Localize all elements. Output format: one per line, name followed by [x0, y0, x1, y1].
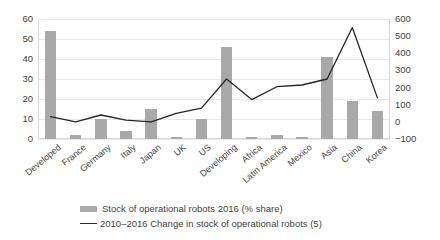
left-axis-tick: 40	[22, 54, 33, 64]
line-swatch-icon	[80, 223, 97, 224]
legend-label-line: 2010–2016 Change in stock of operational…	[100, 218, 322, 229]
plot-area: 0102030405060 −1000100200300400500600	[38, 19, 390, 139]
right-axis-tick: 400	[395, 48, 411, 58]
right-axis-tick: 100	[395, 100, 411, 110]
line-series	[38, 19, 390, 139]
category-axis-labels: DevelopedFranceGermanyItalyJapanUKUSDeve…	[38, 139, 390, 197]
legend-item-line: 2010–2016 Change in stock of operational…	[80, 216, 380, 231]
left-axis-tick: 20	[22, 94, 33, 104]
chart-legend: Stock of operational robots 2016 (% shar…	[80, 201, 380, 231]
left-axis-tick: 60	[22, 14, 33, 24]
bar-swatch-icon	[80, 206, 97, 212]
legend-label-bars: Stock of operational robots 2016 (% shar…	[102, 203, 283, 214]
left-axis-tick: 50	[22, 34, 33, 44]
left-axis-tick: 30	[22, 74, 33, 84]
combo-chart: 0102030405060 −1000100200300400500600 De…	[0, 0, 440, 240]
right-axis-tick: 200	[395, 83, 411, 93]
right-axis-tick: 0	[395, 117, 400, 127]
right-axis-tick: 600	[395, 14, 411, 24]
right-axis-tick: −100	[395, 134, 416, 144]
right-axis-tick: 300	[395, 65, 411, 75]
right-axis-tick: 500	[395, 31, 411, 41]
legend-item-bars: Stock of operational robots 2016 (% shar…	[80, 201, 380, 216]
left-axis-tick: 0	[28, 134, 33, 144]
left-axis-tick: 10	[22, 114, 33, 124]
